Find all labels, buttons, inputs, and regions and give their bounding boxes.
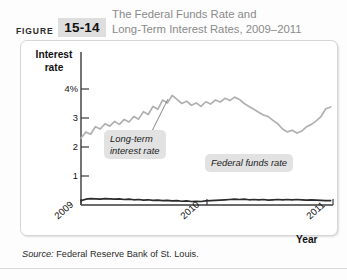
y-axis-title-line-1: Interest rate xyxy=(26,49,82,74)
y-tick-label-1: 1 xyxy=(52,171,78,181)
figure-header: FIGURE 15-14 The Federal Funds Rate and … xyxy=(0,4,347,40)
x-axis-title: Year xyxy=(296,234,318,245)
title-line-2: Long-Term Interest Rates, 2009–2011 xyxy=(112,22,344,37)
page-title: The Federal Funds Rate and Long-Term Int… xyxy=(112,7,344,36)
annotation-long-term-interest-rate: Long-term interest rate xyxy=(104,130,166,159)
figure-number-box: 15-14 xyxy=(58,18,106,37)
figure-label: FIGURE xyxy=(16,26,54,36)
bottom-divider xyxy=(0,268,347,269)
annotation-long-term-line-2: interest rate xyxy=(110,145,160,157)
y-tick-label-2: 2 xyxy=(52,142,78,152)
y-tick-label-4: 4% xyxy=(52,84,78,94)
y-tick-label-3: 3 xyxy=(52,113,78,123)
annotation-long-term-line-1: Long-term xyxy=(110,133,160,145)
source-prefix: Source: xyxy=(22,249,54,259)
figure-number: 15-14 xyxy=(64,20,100,35)
annotation-federal-funds-rate: Federal funds rate xyxy=(205,154,293,172)
source-text: Federal Reserve Bank of St. Louis. xyxy=(56,249,198,259)
title-line-1: The Federal Funds Rate and xyxy=(112,7,344,22)
y-axis-title: Interest rate xyxy=(26,49,82,74)
source-note: Source: Federal Reserve Bank of St. Loui… xyxy=(22,249,199,259)
